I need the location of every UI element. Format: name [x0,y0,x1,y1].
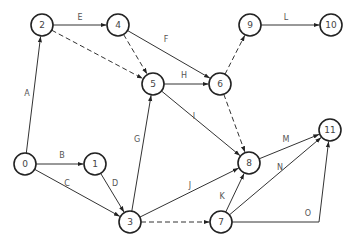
node-8: 8 [238,152,260,174]
node-6: 6 [209,73,231,95]
node-9: 9 [239,14,261,36]
activity-label-g: G [134,135,140,144]
activity-label-l: L [284,13,289,22]
edge-6-8-dummy [224,94,245,152]
activity-label-k: K [219,192,225,201]
edge-7-8-k [226,173,244,212]
node-1: 1 [84,153,106,175]
node-label: 6 [217,79,223,89]
activity-label-c: C [64,179,70,188]
node-label: 1 [92,159,98,169]
activity-label-i: I [193,112,195,121]
nodes-layer: 01234567891011 [14,14,342,233]
network-diagram: ABCDEFGHIJKLMNO 01234567891011 [0,0,358,245]
edge-labels-layer: ABCDEFGHIJKLMNO [24,13,311,218]
edge-3-5-g [132,95,151,211]
activity-label-h: H [181,71,187,80]
edge-6-9-dummy [225,35,245,74]
edge-2-5-dummy [52,30,143,78]
activity-label-f: F [164,35,169,44]
node-11: 11 [319,119,341,141]
activity-label-m: M [283,135,290,144]
node-2: 2 [31,14,53,36]
node-label: 11 [324,125,335,135]
node-5: 5 [142,73,164,95]
activity-label-o: O [305,209,311,218]
edges-layer [26,25,328,222]
activity-label-e: E [77,13,82,22]
node-label: 4 [115,20,121,30]
activity-label-b: B [59,151,65,160]
edge-4-6-f [128,31,211,79]
activity-label-d: D [112,179,118,188]
edge-4-5-dummy [124,35,148,75]
node-label: 0 [22,159,28,169]
node-label: 3 [127,217,133,227]
node-4: 4 [107,14,129,36]
edge-5-8-i [162,91,241,156]
node-3: 3 [119,211,141,233]
activity-label-a: A [24,89,30,98]
node-label: 9 [247,20,253,30]
activity-label-n: N [277,163,283,172]
node-0: 0 [14,153,36,175]
activity-label-j: J [188,181,191,190]
node-7: 7 [210,211,232,233]
node-label: 2 [39,20,45,30]
node-label: 10 [325,20,337,30]
node-label: 8 [246,158,252,168]
node-label: 7 [218,217,224,227]
node-10: 10 [320,14,342,36]
edge-0-3-c [35,169,120,216]
node-label: 5 [150,79,156,89]
